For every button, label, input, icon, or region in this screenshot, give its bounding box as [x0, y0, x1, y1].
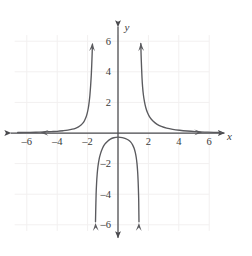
figure-canvas: –6–4–2246–6–4–2246 xy — [0, 0, 252, 256]
y-axis-label: y — [124, 21, 130, 33]
rational-function-graph: –6–4–2246–6–4–2246 xy — [0, 0, 252, 256]
curve-branches — [18, 43, 222, 231]
y-tick-label: –6 — [100, 219, 112, 230]
x-axis-label: x — [226, 130, 232, 142]
x-tick-label: –2 — [81, 136, 93, 147]
middle-right-down-arrow — [136, 223, 142, 231]
y-tick-label: –4 — [100, 189, 112, 200]
y-tick-label: –2 — [100, 158, 112, 169]
y-tick-label: 2 — [106, 97, 111, 108]
axis-names: xy — [124, 21, 232, 142]
curve-left-branch — [18, 44, 93, 132]
y-tick-label: 6 — [106, 36, 111, 47]
x-tick-label: 2 — [146, 136, 151, 147]
middle-left-down-arrow — [93, 223, 99, 231]
x-tick-label: –6 — [21, 136, 33, 147]
curve-middle-branch — [96, 137, 139, 222]
y-tick-label: 4 — [106, 66, 112, 77]
x-tick-label: –4 — [51, 136, 63, 147]
x-tick-label: 4 — [176, 136, 182, 147]
x-tick-label: 6 — [207, 136, 212, 147]
